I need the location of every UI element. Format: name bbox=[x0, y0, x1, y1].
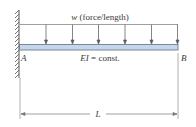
load-arrow-icon bbox=[124, 25, 127, 45]
stiffness-label: EI = const. bbox=[79, 53, 119, 63]
load-arrow-icon bbox=[45, 25, 48, 45]
load-arrow-icon bbox=[150, 25, 153, 45]
end-label-a: A bbox=[20, 53, 27, 63]
length-label: L bbox=[94, 109, 100, 119]
load-label: w (force/length) bbox=[71, 12, 129, 22]
cantilever-beam-diagram: w (force/length) A B EI = const. L bbox=[0, 0, 196, 127]
dimension-arrow-left-icon bbox=[21, 113, 25, 116]
beam bbox=[20, 45, 179, 51]
distributed-load-arrows bbox=[45, 25, 180, 45]
load-arrow-icon bbox=[71, 25, 74, 45]
fixed-wall-support bbox=[15, 10, 19, 78]
load-arrow-icon bbox=[176, 25, 179, 45]
load-arrow-icon bbox=[97, 25, 100, 45]
dimension-arrow-right-icon bbox=[173, 113, 177, 116]
end-label-b: B bbox=[181, 53, 187, 63]
